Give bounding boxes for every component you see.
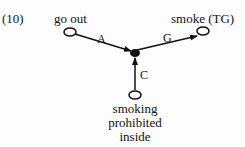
label-smoke: smoke (TG) <box>171 12 234 26</box>
node-prohibited <box>129 91 141 99</box>
edge-label-a: A <box>97 33 106 45</box>
label-go-out: go out <box>54 12 87 26</box>
label-line-3: inside <box>95 130 175 144</box>
node-center <box>130 49 140 57</box>
edge-label-c: C <box>140 69 148 81</box>
label-line-1: smoking <box>95 102 175 116</box>
figure-number: (10) <box>2 12 24 26</box>
node-go-out <box>64 28 76 36</box>
node-smoke <box>197 27 209 35</box>
edge-label-g: G <box>163 32 172 44</box>
label-prohibited: smoking prohibited inside <box>95 102 175 144</box>
diagram: (10) go out smoke (TG) A G C smoking pro… <box>0 0 245 147</box>
label-line-2: prohibited <box>95 116 175 130</box>
